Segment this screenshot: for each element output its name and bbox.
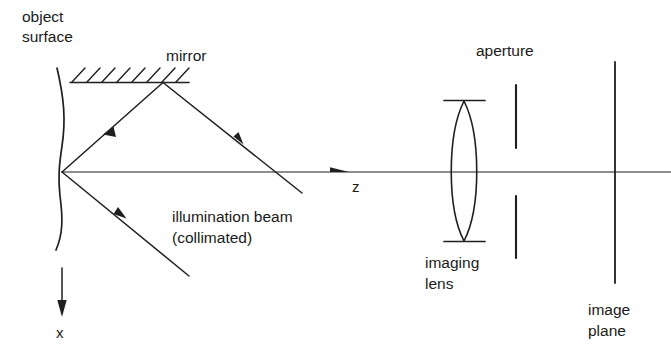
optical-axis-group (62, 167, 671, 172)
ray-mirror-to-object-line (62, 83, 163, 173)
imaging-lens-label-line1: imaging (425, 254, 479, 271)
ray-incoming-collimated (163, 83, 302, 194)
mirror-hatch-marks (72, 68, 189, 82)
x-axis-label: x (56, 324, 64, 341)
ray-object-lower-arrowhead (114, 207, 127, 219)
ray-incoming-line (163, 83, 302, 194)
mirror-group (70, 68, 189, 83)
optical-diagram-figure: object surface mirror illumination beam … (0, 0, 671, 361)
z-axis-arrowhead (330, 167, 349, 172)
image-plane-label-line2: plane (588, 322, 626, 339)
imaging-lens-label-line2: lens (425, 275, 454, 292)
image-plane-label-line1: image (588, 301, 630, 318)
ray-mirror-to-object-arrowhead (103, 127, 116, 138)
z-axis-label: z (352, 178, 360, 195)
object-surface-label-line2: surface (22, 28, 73, 45)
optical-diagram-canvas: object surface mirror illumination beam … (0, 0, 671, 361)
x-axis-group (57, 268, 66, 317)
ray-object-lower-line (62, 172, 189, 276)
object-surface-curve (56, 68, 64, 250)
mirror-label: mirror (166, 47, 206, 64)
ray-object-lower (62, 172, 189, 276)
object-surface-label-line1: object (22, 8, 64, 25)
illumination-beam-label-line2: (collimated) (172, 229, 252, 246)
illumination-beam-label-line1: illumination beam (172, 208, 293, 225)
ray-mirror-to-object (62, 83, 163, 173)
aperture-label: aperture (476, 42, 534, 59)
imaging-lens-group (444, 101, 485, 242)
x-axis-arrowhead (57, 300, 66, 317)
imaging-lens-body (451, 101, 477, 241)
